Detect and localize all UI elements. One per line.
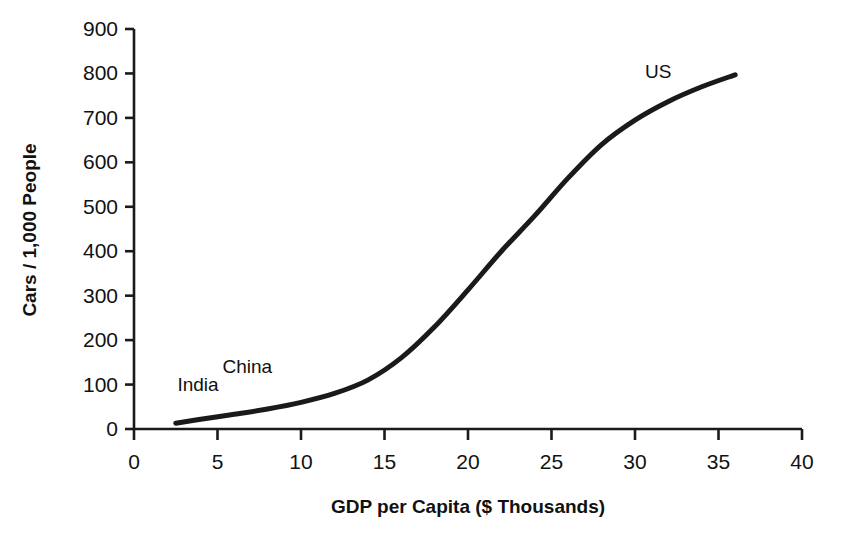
y-tick-label: 100 (83, 373, 118, 396)
x-tick-label: 30 (623, 450, 646, 473)
x-axis-title: GDP per Capita ($ Thousands) (331, 496, 605, 517)
x-tick-label: 10 (289, 450, 312, 473)
annotation-label: India (177, 374, 219, 395)
y-tick-label: 300 (83, 284, 118, 307)
x-tick-label: 15 (373, 450, 396, 473)
annotation-label: China (223, 356, 273, 377)
y-tick-label: 500 (83, 195, 118, 218)
x-tick-label-group: 0510152025303540 (128, 450, 814, 473)
x-tick-label: 40 (790, 450, 813, 473)
x-tick-label: 5 (212, 450, 224, 473)
y-tick-label: 800 (83, 61, 118, 84)
y-tick-label: 900 (83, 17, 118, 40)
chart-canvas: 0100200300400500600700800900 05101520253… (0, 0, 847, 551)
annotation-label: US (645, 61, 671, 82)
y-tick-label-group: 0100200300400500600700800900 (83, 17, 118, 440)
y-tick-label: 0 (106, 417, 118, 440)
y-tick-label: 400 (83, 239, 118, 262)
chart-figure: 0100200300400500600700800900 05101520253… (0, 0, 847, 551)
axis-lines-group (125, 29, 802, 440)
y-tick-label: 700 (83, 106, 118, 129)
annotation-group: IndiaChinaUS (177, 61, 671, 395)
y-axis-title: Cars / 1,000 People (19, 143, 40, 316)
y-tick-label: 600 (83, 150, 118, 173)
x-tick-label: 0 (128, 450, 140, 473)
x-tick-label: 25 (540, 450, 563, 473)
x-tick-label: 35 (707, 450, 730, 473)
x-tick-label: 20 (456, 450, 479, 473)
y-tick-label: 200 (83, 328, 118, 351)
